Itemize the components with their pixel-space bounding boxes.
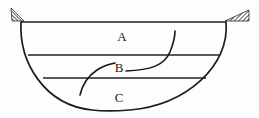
- flow-curve-upper: [126, 31, 175, 71]
- support-wedge-left-icon: [11, 8, 24, 21]
- bowl-cross-section-diagram: A B C: [0, 0, 259, 118]
- layer-label-a: A: [117, 29, 127, 44]
- layer-label-b: B: [115, 60, 124, 75]
- diagram-canvas: A B C: [0, 0, 259, 118]
- flow-curve-lower: [80, 63, 115, 95]
- layer-label-c: C: [115, 90, 124, 105]
- support-wedge-right-icon: [225, 10, 249, 21]
